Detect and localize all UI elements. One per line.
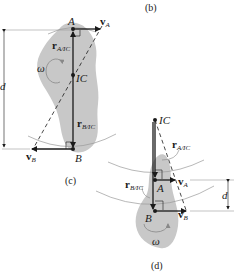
point-IC-c: [71, 73, 75, 77]
panel-c: d ω A IC B vA vB rA/IC rB/IC: [0, 15, 116, 187]
label-vB-c: vB: [26, 150, 37, 164]
point-B-d: [153, 209, 157, 213]
label-rB-d: rB/IC: [125, 178, 143, 192]
caption-c: (c): [65, 175, 76, 187]
label-IC-c: IC: [75, 72, 88, 84]
label-vA-d: vA: [178, 175, 189, 189]
point-A-c: [71, 27, 75, 31]
point-IC-d: [153, 118, 157, 122]
label-rA-d: rA/IC: [172, 138, 190, 152]
caption-b: (b): [145, 2, 157, 14]
label-A-c: A: [67, 15, 75, 27]
label-omega-c: ω: [37, 62, 45, 74]
label-B-d: B: [145, 212, 152, 224]
label-B-c: B: [75, 152, 82, 164]
kinematics-diagram: (b) d ω A IC B: [0, 0, 234, 274]
point-B-c: [71, 147, 75, 151]
label-vA-c: vA: [100, 15, 111, 29]
label-A-d: A: [156, 182, 164, 194]
caption-d: (d): [151, 260, 163, 272]
panel-d: d ω IC A B rA/IC rB/IC vA vB (d): [96, 114, 234, 272]
label-omega-d: ω: [152, 235, 160, 247]
label-vB-d: vB: [178, 208, 189, 222]
label-IC-d: IC: [158, 114, 171, 126]
label-d-c: d: [0, 80, 6, 92]
label-d-d: d: [222, 189, 228, 201]
